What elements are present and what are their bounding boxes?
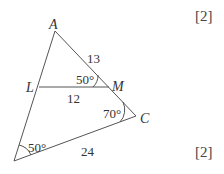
angle-label-m: 50°	[76, 72, 94, 87]
length-label-bc: 24	[81, 144, 95, 159]
vertex-label-m: M	[111, 79, 125, 94]
angle-label-b: 50°	[28, 140, 46, 155]
vertex-label-l: L	[25, 80, 34, 95]
angle-label-c: 70°	[103, 106, 121, 121]
marks-label-2: [2]	[195, 144, 213, 160]
vertex-label-a: A	[48, 17, 58, 32]
length-label-lm: 12	[67, 91, 80, 106]
marks-label-1: [2]	[195, 8, 213, 24]
length-label-am: 13	[87, 51, 100, 66]
triangle-diagram: A L M C 13 12 24 50° 70° 50° [2] [2]	[0, 0, 224, 174]
vertex-label-c: C	[140, 111, 150, 126]
